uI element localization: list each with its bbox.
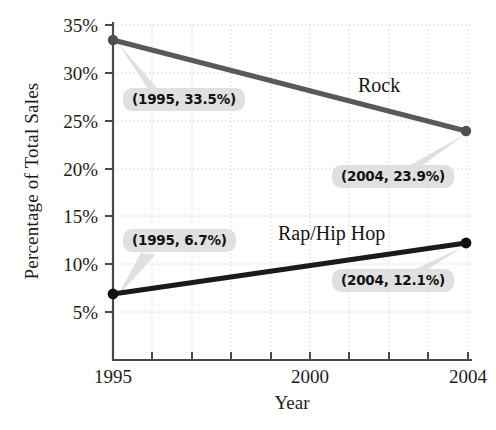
y-tick-label-35: 35%: [36, 16, 98, 35]
rock-line: [113, 40, 466, 131]
x-tick-label-1995: 1995: [73, 367, 153, 386]
y-tick-label-30: 30%: [36, 64, 98, 83]
vertical-gridlines: [152, 25, 468, 360]
rap-point-1995: [108, 289, 119, 300]
y-tick-label-25: 25%: [36, 112, 98, 131]
x-tick-label-2000: 2000: [270, 367, 350, 386]
y-tick-label-15: 15%: [36, 207, 98, 226]
callout-rap-1995: (1995, 6.7%): [123, 229, 236, 252]
series-label-rap-hip-hop: Rap/Hip Hop: [278, 222, 385, 245]
x-tick-label-2004: 2004: [428, 367, 496, 386]
y-tick-label-5: 5%: [36, 303, 98, 322]
series-label-rock: Rock: [358, 74, 400, 97]
rap-point-2004: [461, 238, 472, 249]
callout-rap-2004: (2004, 12.1%): [332, 269, 454, 292]
callout-rock-2004: (2004, 23.9%): [332, 165, 454, 188]
line-chart: 35% 30% 25% 20% 15% 10% 5% 1995 2000 200…: [0, 0, 496, 430]
y-tick-label-20: 20%: [36, 160, 98, 179]
x-axis-title: Year: [112, 392, 472, 414]
y-axis-title: Percentage of Total Sales: [21, 61, 43, 301]
y-axis-ticks: [105, 25, 113, 312]
rock-point-1995: [108, 35, 118, 45]
y-tick-label-10: 10%: [36, 255, 98, 274]
callout-rock-1995: (1995, 33.5%): [123, 88, 245, 111]
rock-point-2004: [461, 126, 471, 136]
x-axis-ticks: [113, 352, 468, 360]
